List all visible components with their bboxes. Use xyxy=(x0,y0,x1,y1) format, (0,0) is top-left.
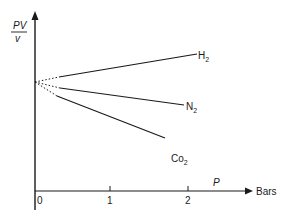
series-label-h2: H2 xyxy=(198,50,209,63)
co2-extrapolation xyxy=(35,82,57,96)
x-axis-label: P xyxy=(213,177,220,188)
y-axis-arrow-icon xyxy=(32,11,39,20)
x-axis-arrow-icon xyxy=(245,188,253,195)
h2-extrapolation xyxy=(35,77,59,82)
chart: 0 1 2 P Bars PV v H2 N2 Co2 xyxy=(0,0,286,218)
x-tick-label-1: 1 xyxy=(107,195,113,206)
series-line-h2 xyxy=(59,54,197,77)
x-tick-label-0: 0 xyxy=(37,195,43,206)
series-label-co2: Co2 xyxy=(171,153,188,166)
series-line-n2 xyxy=(60,88,184,105)
series-line-co2 xyxy=(57,96,165,138)
y-axis-label-denominator: v xyxy=(15,33,21,44)
x-tick-label-2: 2 xyxy=(185,195,191,206)
series-label-n2: N2 xyxy=(186,101,197,114)
x-axis-unit: Bars xyxy=(256,186,277,197)
y-axis-label-numerator: PV xyxy=(13,20,28,31)
n2-extrapolation xyxy=(35,82,60,88)
